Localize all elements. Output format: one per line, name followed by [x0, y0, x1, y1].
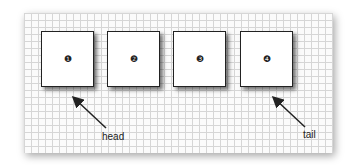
pointer-arrows: [0, 0, 354, 165]
head-arrow-icon: [74, 98, 106, 128]
head-label: head: [102, 131, 124, 142]
tail-arrow-icon: [274, 98, 305, 127]
tail-label: tail: [303, 129, 316, 140]
